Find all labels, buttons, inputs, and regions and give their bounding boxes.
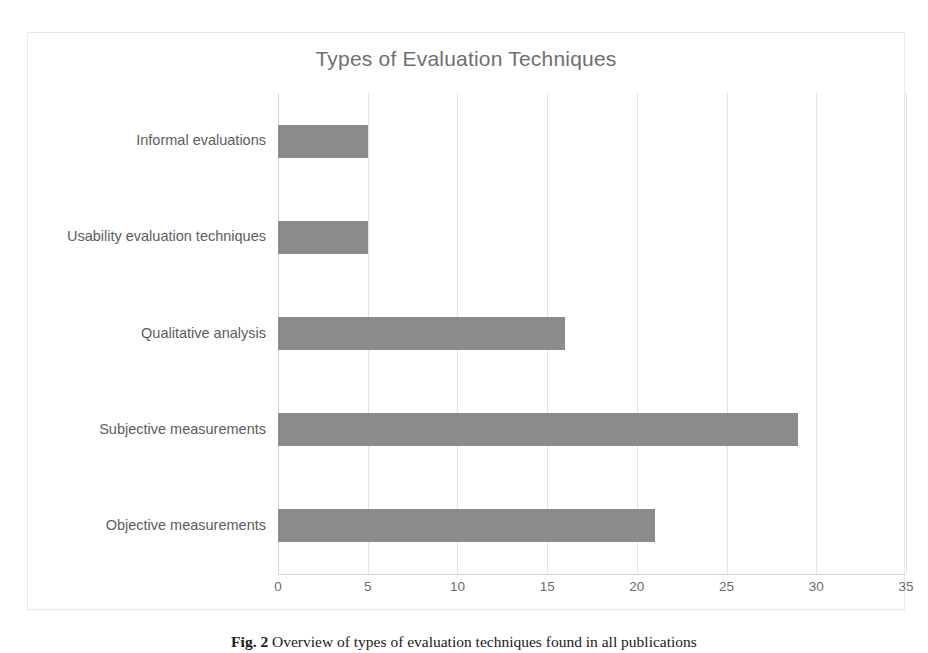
x-tick-label: 5 <box>364 579 372 594</box>
chart-title: Types of Evaluation Techniques <box>28 47 904 71</box>
gridline-25 <box>727 93 728 574</box>
category-label: Informal evaluations <box>136 132 266 148</box>
gridline-35 <box>906 93 907 574</box>
bar <box>278 125 368 158</box>
x-tick-label: 15 <box>540 579 555 594</box>
gridline-30 <box>816 93 817 574</box>
gridline-20 <box>637 93 638 574</box>
figure-caption: Fig. 2 Overview of types of evaluation t… <box>0 633 928 651</box>
x-tick-label: 10 <box>450 579 465 594</box>
x-tick-label: 25 <box>719 579 734 594</box>
category-label: Usability evaluation techniques <box>67 228 266 244</box>
figure-frame: Types of Evaluation Techniques Informal … <box>27 32 905 610</box>
x-tick-label: 30 <box>809 579 824 594</box>
bar <box>278 509 655 542</box>
x-tick-label: 20 <box>629 579 644 594</box>
category-label: Subjective measurements <box>99 421 266 437</box>
bar <box>278 221 368 254</box>
bar <box>278 413 798 446</box>
x-axis-line <box>278 574 906 575</box>
x-tick-label: 35 <box>898 579 913 594</box>
category-label: Objective measurements <box>106 517 266 533</box>
bar <box>278 317 565 350</box>
plot-area <box>278 93 906 574</box>
figure-caption-text: Overview of types of evaluation techniqu… <box>272 633 697 650</box>
figure-caption-label: Fig. 2 <box>231 633 268 650</box>
category-label: Qualitative analysis <box>141 325 266 341</box>
y-axis-category-labels: Informal evaluationsUsability evaluation… <box>28 93 278 574</box>
x-axis-tick-labels: 05101520253035 <box>278 579 906 607</box>
x-tick-label: 0 <box>274 579 282 594</box>
